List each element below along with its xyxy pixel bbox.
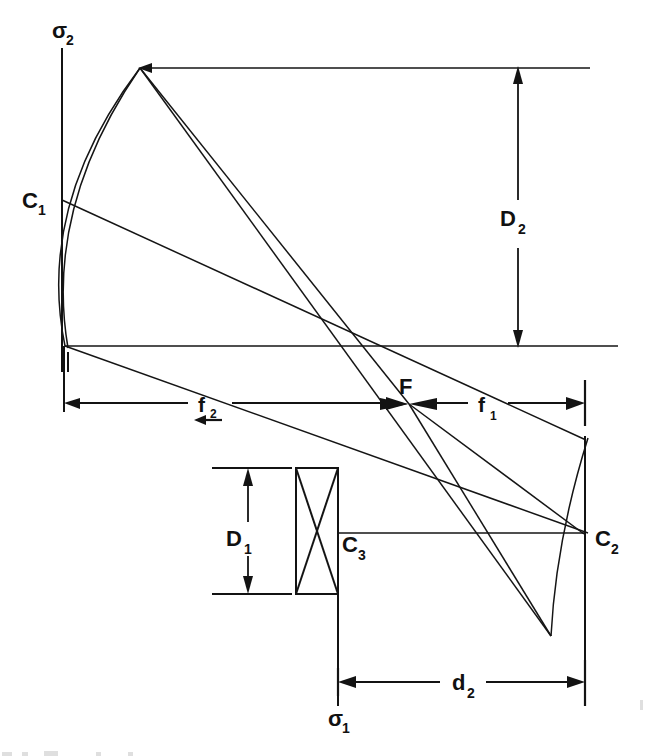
page-edge-artifacts <box>2 700 643 756</box>
label-c2-subscript: 2 <box>611 541 619 557</box>
label-d2-subscript: 2 <box>518 221 526 237</box>
label-c3: C <box>342 532 358 557</box>
label-c2: C <box>595 526 611 551</box>
ray-focus-to-c2-mid <box>409 404 584 534</box>
label-f2: f <box>198 393 206 416</box>
optical-diagram: σ 2 C 1 D 2 F f 2 f 1 D 1 C 3 C 2 d 2 σ … <box>0 0 652 756</box>
label-focal-point-f: F <box>399 374 412 399</box>
label-f1-subscript: 1 <box>490 409 497 423</box>
d2-bottom-right-arrowhead-icon <box>567 676 585 688</box>
label-f2-subscript: 2 <box>210 407 217 421</box>
label-c1: C <box>22 188 38 213</box>
label-sigma2-subscript: 2 <box>66 32 74 48</box>
label-sigma1: σ <box>328 706 343 731</box>
primary-mirror-c1-arc-inner <box>63 68 140 348</box>
label-d1-subscript: 1 <box>244 541 252 557</box>
ray-c1-to-c2-upper <box>62 200 586 440</box>
figure-container: σ 2 C 1 D 2 F f 2 f 1 D 1 C 3 C 2 d 2 σ … <box>0 0 652 756</box>
f1-right-arrowhead-icon <box>566 397 585 410</box>
label-d1: D <box>226 526 242 551</box>
label-d2: D <box>500 206 516 231</box>
ray-c1-top-to-focus <box>140 68 409 404</box>
focus-right-converge-arrow-icon <box>409 398 437 410</box>
d1-upper-arrowhead-icon <box>243 468 253 486</box>
primary-mirror-c1-arc <box>59 68 140 346</box>
d1-lower-arrowhead-icon <box>243 576 253 594</box>
label-sigma1-subscript: 1 <box>342 720 350 736</box>
label-c3-subscript: 3 <box>358 547 366 563</box>
label-d2-distance: d <box>452 670 465 695</box>
f2-left-arrowhead-icon <box>64 398 80 409</box>
label-sigma2: σ <box>52 18 67 43</box>
f2-sub-arrowhead-icon <box>194 415 206 425</box>
d2-bottom-left-arrowhead-icon <box>338 676 356 688</box>
label-c1-subscript: 1 <box>38 202 46 218</box>
label-d2-distance-subscript: 2 <box>467 685 475 701</box>
label-f1: f <box>478 393 486 416</box>
secondary-mirror-c2-arc <box>551 438 588 636</box>
ray-focus-to-c2-bottom <box>409 404 551 636</box>
